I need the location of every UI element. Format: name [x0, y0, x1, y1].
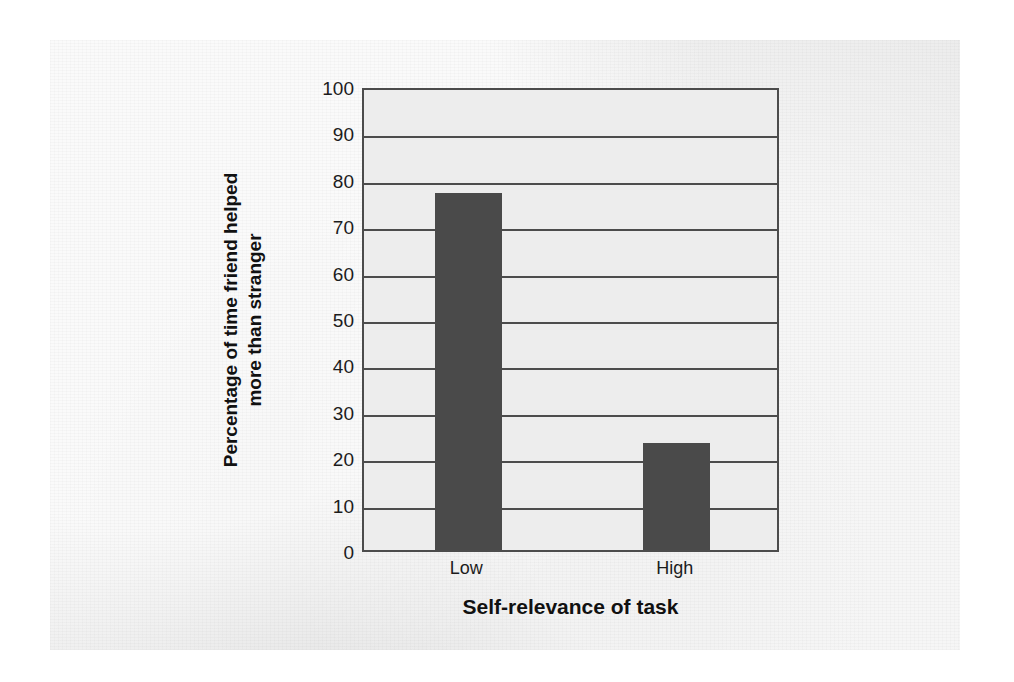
- x-tick-label-low: Low: [450, 558, 483, 579]
- y-tick-label: 40: [302, 357, 354, 376]
- gridline: [364, 322, 777, 324]
- y-tick-label: 70: [302, 218, 354, 237]
- gridline: [364, 415, 777, 417]
- y-axis-title: Percentage of time friend helped more th…: [213, 88, 273, 552]
- gridline: [364, 461, 777, 463]
- plot-area: [362, 88, 779, 552]
- y-tick-label: 80: [302, 171, 354, 190]
- x-axis-tick-labels: LowHigh: [362, 558, 779, 586]
- y-tick-label: 100: [302, 79, 354, 98]
- x-tick-label-high: High: [656, 558, 693, 579]
- y-tick-label: 90: [302, 125, 354, 144]
- y-tick-label: 60: [302, 264, 354, 283]
- y-axis-tick-labels: 0102030405060708090100: [298, 88, 354, 552]
- gridline: [364, 508, 777, 510]
- gridline: [364, 183, 777, 185]
- y-tick-label: 50: [302, 311, 354, 330]
- y-tick-label: 20: [302, 450, 354, 469]
- y-tick-label: 30: [302, 403, 354, 422]
- gridline: [364, 368, 777, 370]
- y-tick-label: 10: [302, 496, 354, 515]
- gridline: [364, 136, 777, 138]
- gridline: [364, 276, 777, 278]
- gridline: [364, 229, 777, 231]
- y-tick-label: 0: [302, 543, 354, 562]
- x-axis-title: Self-relevance of task: [362, 595, 779, 619]
- bar-low: [435, 193, 502, 550]
- bar-chart-figure: Percentage of time friend helped more th…: [50, 40, 960, 650]
- scanned-page-panel: Percentage of time friend helped more th…: [50, 40, 960, 650]
- bar-high: [643, 443, 710, 550]
